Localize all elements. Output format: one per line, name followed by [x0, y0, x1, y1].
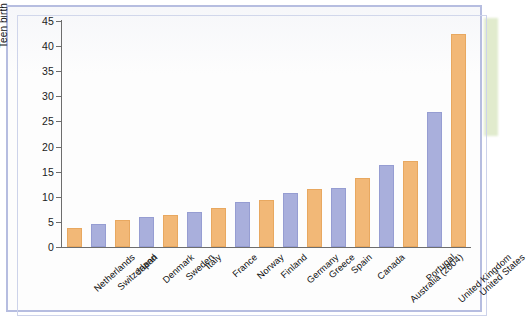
bar-portugal [403, 161, 418, 247]
bar-germany [283, 193, 298, 247]
bar-australia-2004 [379, 165, 394, 247]
y-axis-tick-label: 15 [42, 166, 54, 178]
y-axis-tick-label: 35 [42, 65, 54, 77]
bar-denmark [139, 217, 154, 247]
y-axis-tick [56, 172, 61, 173]
y-axis-tick [56, 96, 61, 97]
y-axis-tick-label: 10 [42, 191, 54, 203]
bar-sweden [163, 215, 178, 247]
y-axis-tick-label: 30 [42, 90, 54, 102]
y-axis-tick [56, 71, 61, 72]
x-axis-label-norway: Norway [255, 252, 286, 281]
x-axis-label-france: France [231, 252, 260, 279]
bar-greece [307, 189, 322, 247]
y-axis-tick-label: 45 [42, 15, 54, 27]
bar-united-states [451, 34, 466, 247]
plot-area [62, 21, 470, 247]
x-axis-line [61, 247, 471, 248]
bar-italy [187, 212, 202, 247]
x-axis-label-canada: Canada [376, 252, 407, 282]
bar-netherlands [67, 228, 82, 247]
y-axis-tick [56, 147, 61, 148]
y-axis-tick [56, 197, 61, 198]
bar-united-kingdom [427, 112, 442, 247]
bar-finland [259, 200, 274, 247]
bar-canada [355, 178, 370, 247]
y-axis-tick-label: 20 [42, 141, 54, 153]
bar-norway [235, 202, 250, 247]
y-axis-tick [56, 121, 61, 122]
y-axis-tick [56, 21, 61, 22]
y-axis-tick [56, 222, 61, 223]
bar-france [211, 208, 226, 247]
y-axis-title: Teen birth rate (per 1,000 girls 15–19) [0, 0, 9, 48]
x-axis-category-labels: NetherlandsSwitzerlandJapanDenmarkSweden… [0, 250, 501, 319]
bar-japan [115, 220, 130, 247]
y-axis-tick-label: 5 [48, 216, 54, 228]
bar-spain [331, 188, 346, 247]
bar-switzerland [91, 224, 106, 247]
y-axis-tick-label: 40 [42, 40, 54, 52]
y-axis-tick [56, 46, 61, 47]
y-axis-tick-label: 25 [42, 115, 54, 127]
